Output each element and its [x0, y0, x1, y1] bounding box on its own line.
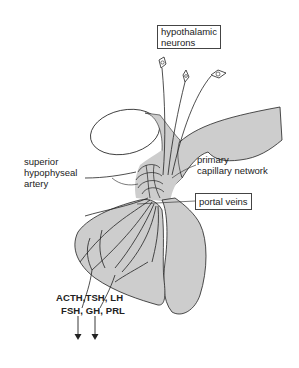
posterior-pituitary-lobe: [162, 198, 206, 314]
label-line: superior: [24, 156, 77, 167]
hormone-list-line-1: ACTH,TSH, LH: [56, 292, 123, 303]
optic-chiasm-oval: [86, 103, 164, 161]
label-line: hypophyseal: [24, 167, 77, 178]
hormone-list-line-2: FSH, GH, PRL: [61, 305, 125, 316]
primary-capillary-network-label: primary capillary network: [197, 154, 268, 176]
label-line: hypothalamic: [161, 26, 217, 37]
neuron-cell-2: [183, 70, 189, 82]
superior-hypophyseal-artery-line: [85, 172, 136, 178]
hormone-release-arrows: [75, 316, 99, 340]
label-line: artery: [24, 178, 77, 189]
label-line: primary: [197, 154, 268, 165]
hypothalamic-neurons-label: hypothalamic neurons: [157, 25, 221, 49]
portal-veins-label: portal veins: [195, 193, 252, 210]
label-line: capillary network: [197, 165, 268, 176]
label-line: neurons: [161, 37, 217, 48]
artery-branch: [112, 178, 138, 185]
label-text: portal veins: [199, 196, 248, 207]
neuron-cell-1: [159, 57, 166, 68]
superior-hypophyseal-artery-label: superior hypophyseal artery: [24, 156, 77, 189]
neuron-cell-3: [211, 70, 226, 78]
